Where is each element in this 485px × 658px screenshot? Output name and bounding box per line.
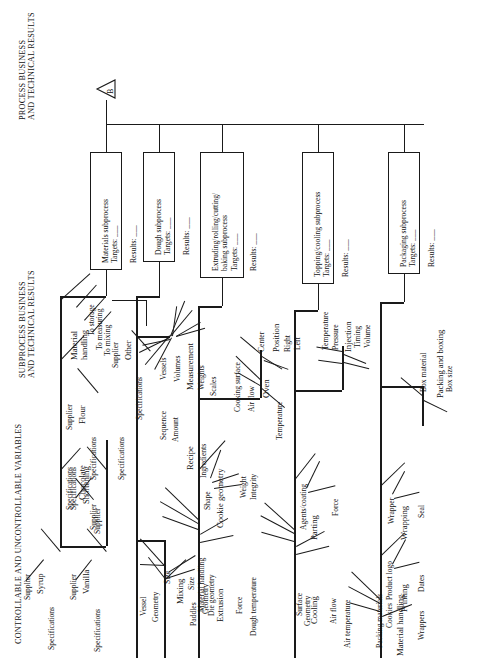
label-right: Right: [284, 335, 293, 352]
connector-flag-label: B: [106, 89, 115, 94]
dough-mixing-spine: [164, 540, 166, 658]
label-other: Other: [124, 340, 134, 360]
label-syrup-specifications: Specifications: [48, 607, 57, 650]
label-shape: Shape: [204, 491, 213, 510]
connector-flag-b: B: [95, 78, 117, 100]
label-dough-temperature: Dough temperature: [250, 577, 259, 636]
label-paddles-size: Size: [188, 577, 197, 590]
label-recipe: Recipe: [186, 446, 196, 470]
fishbone-diagram-canvas: PROCESS BUSINESS AND TECHNICAL RESULTS S…: [0, 0, 485, 658]
label-position: Position: [272, 324, 282, 352]
subprocess-box-extruding[interactable]: Extruding/rolling/cutting/ baking subpro…: [200, 152, 244, 278]
topping-box-name: Topping/cooling subprocess: [313, 192, 322, 277]
process-spine: [106, 124, 424, 125]
dough-bone-main: [136, 336, 170, 338]
materials-rib-supplier-other-stem: [112, 300, 146, 301]
topping-box-results: Results: ___: [341, 192, 350, 277]
label-amount: Amount: [172, 417, 181, 442]
packaging-box-stem: [404, 274, 405, 302]
dough-box-targets: Targets: ___: [163, 199, 172, 255]
label-injection-pressure: Pressure: [332, 324, 341, 350]
flag-stem: [106, 100, 107, 124]
packaging-box-targets: Targets: ___: [408, 200, 417, 267]
label-injection-volume: Volume: [364, 325, 373, 349]
spine-drop-extruding: [222, 124, 223, 152]
topping-twig-air-temperature: [296, 546, 329, 555]
process-header: PROCESS BUSINESS AND TECHNICAL RESULTS: [18, 12, 36, 120]
label-mixing-geometry: Geometry: [152, 592, 161, 622]
label-shortening-supplier: Supplier: [94, 508, 103, 534]
materials-secondary-join: [60, 546, 106, 548]
dough-twig-size1: [140, 564, 166, 566]
label-cookies: Cookies: [386, 603, 395, 628]
subprocess-box-packaging[interactable]: Packaging subprocess Targets: ___ Result…: [388, 152, 420, 274]
subprocess-header: SUBPROCESS BUSINESS AND TECHNICAL RESULT…: [18, 270, 36, 378]
extruding-box-name-line2: baking subprocess: [220, 193, 229, 271]
materials-secondary-spine: [106, 440, 108, 546]
process-header-line2: AND TECHNICAL RESULTS: [27, 12, 36, 120]
subprocess-box-materials[interactable]: Materials subprocess Targets: ___ Result…: [90, 152, 122, 270]
spine-drop-topping: [318, 124, 319, 152]
packaging-twig-seal: [394, 492, 419, 499]
topping-twig-geometry: [261, 532, 294, 542]
subprocess-box-dough[interactable]: Dough subprocess Targets: ___ Results: _…: [143, 152, 175, 262]
label-die-geometry: Die geometry: [208, 574, 217, 616]
label-wrappers: Wrappers: [418, 611, 427, 640]
label-volumes: Volumes: [174, 356, 183, 382]
packaging-twig-dates: [394, 562, 419, 569]
materials-box-results: Results: ___: [129, 199, 138, 263]
label-vessel: Vessel: [140, 597, 149, 616]
packaging-bone-top: [380, 302, 404, 304]
label-vanilla: Vanilla: [82, 570, 92, 594]
materials-box-stem: [106, 270, 107, 296]
spine-drop-dough: [159, 124, 160, 152]
subprocess-box-topping[interactable]: Topping/cooling subprocess Targets: ___ …: [302, 152, 334, 284]
topping-twig-force: [308, 485, 335, 493]
label-flour: Flour: [78, 405, 88, 424]
topping-injection-spine: [342, 346, 344, 390]
packaging-box-name: Packaging subprocess: [399, 200, 408, 267]
label-shortening-specifications: Specifications: [70, 467, 79, 510]
extruding-box-results: Results: ___: [249, 193, 258, 271]
label-materials-spine-specifications: Specifications: [118, 437, 127, 480]
extruding-box-name-line1: Extruding/rolling/cutting/: [211, 193, 220, 271]
label-box-material: Box material: [420, 353, 429, 392]
label-syrup: Syrup: [36, 573, 46, 594]
label-sequence: Sequence: [160, 411, 169, 440]
materials-box-name: Materials subprocess: [101, 199, 110, 263]
topping-twig-pressure: [318, 360, 342, 364]
spine-drop-packaging: [404, 124, 405, 152]
packaging-box-results: Results: ___: [427, 200, 436, 267]
label-cooling-geometry: Geometry: [304, 596, 313, 626]
materials-bone-spine: [60, 296, 62, 546]
label-injection-timing: Timing: [354, 326, 363, 348]
dough-bone-top: [136, 296, 160, 298]
extruding-box-targets: Targets: ___: [230, 193, 239, 271]
label-air-temperature: Air temperature: [344, 600, 353, 648]
label-extrusion-material-handling: Material handling: [198, 558, 207, 612]
variables-header: CONTROLLABLE AND UNCONTROLLABLE VARIABLE…: [14, 424, 23, 644]
label-packing-materials: Packing materials: [376, 594, 385, 648]
label-supplier-other-supplier: Supplier: [112, 342, 121, 368]
packaging-boxing-join: [380, 386, 422, 388]
label-weight: Weight: [240, 476, 249, 498]
packaging-twig-box-size: [424, 400, 448, 412]
label-center: Center: [258, 332, 267, 352]
label-vessels: Vessels: [160, 358, 169, 380]
label-oven-temperature: Temperature: [276, 402, 285, 440]
dough-bone-spine: [136, 296, 138, 658]
extruding-bone-top: [198, 306, 222, 308]
subprocess-header-line1: SUBPROCESS BUSINESS: [18, 281, 27, 378]
packaging-twig-wrapper: [392, 471, 405, 494]
materials-rib-supplier-other-v: [146, 300, 147, 326]
spine-drop-materials: [106, 124, 107, 152]
topping-injection-join: [294, 390, 342, 392]
label-seal: Seal: [418, 505, 427, 518]
label-box-size: Box size: [446, 366, 455, 392]
label-dates: Dates: [418, 575, 427, 592]
extruding-box-stem: [222, 278, 223, 306]
label-flour-supplier: Supplier: [66, 404, 75, 430]
label-mixing: Mixing: [176, 579, 186, 604]
label-agents-coating: Agents/coating: [300, 484, 309, 530]
label-cooling-air-flow: Air flow: [330, 598, 339, 624]
